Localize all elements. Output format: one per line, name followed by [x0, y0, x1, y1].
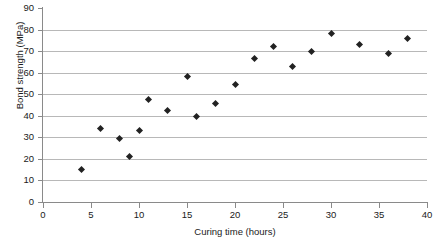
y-tick-mark [38, 8, 43, 9]
gridline [43, 73, 427, 74]
plot-area [43, 8, 427, 202]
x-tick-label: 25 [268, 210, 298, 220]
x-tick-mark [379, 203, 380, 208]
x-tick-mark [91, 203, 92, 208]
x-tick-label: 35 [364, 210, 394, 220]
y-axis-title: Bond strength (MPa) [14, 0, 25, 141]
y-tick-mark [38, 51, 43, 52]
x-tick-label: 5 [76, 210, 106, 220]
x-tick-label: 40 [412, 210, 438, 220]
y-tick-label: 10 [4, 175, 34, 185]
y-tick-mark [38, 159, 43, 160]
x-tick-label: 0 [28, 210, 58, 220]
gridline [43, 51, 427, 52]
gridline [43, 137, 427, 138]
y-tick-label: 0 [4, 197, 34, 207]
gridline [43, 116, 427, 117]
y-tick-mark [38, 137, 43, 138]
y-tick-label: 20 [4, 154, 34, 164]
gridline [43, 159, 427, 160]
x-tick-mark [43, 203, 44, 208]
y-tick-mark [38, 94, 43, 95]
y-tick-mark [38, 73, 43, 74]
y-axis-line [42, 7, 43, 203]
x-tick-label: 20 [220, 210, 250, 220]
gridline [43, 30, 427, 31]
x-tick-mark [235, 203, 236, 208]
gridline [43, 180, 427, 181]
x-tick-mark [427, 203, 428, 208]
x-tick-label: 10 [124, 210, 154, 220]
y-tick-mark [38, 116, 43, 117]
gridline [43, 94, 427, 95]
x-tick-mark [139, 203, 140, 208]
x-tick-label: 30 [316, 210, 346, 220]
x-axis-title: Curing time (hours) [43, 226, 427, 237]
scatter-chart: 0102030405060708090 0510152025303540 Bon… [0, 0, 438, 246]
y-tick-mark [38, 30, 43, 31]
y-tick-mark [38, 180, 43, 181]
x-tick-mark [187, 203, 188, 208]
x-tick-mark [331, 203, 332, 208]
x-tick-label: 15 [172, 210, 202, 220]
x-tick-mark [283, 203, 284, 208]
